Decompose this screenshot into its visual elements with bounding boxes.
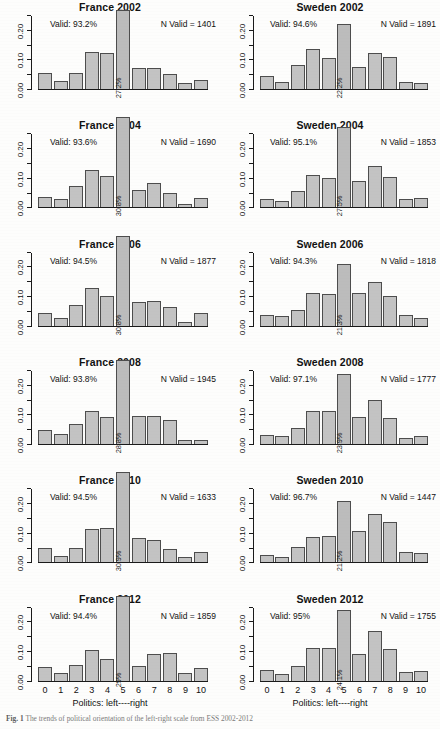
y-axis-minor-tick: [249, 74, 253, 75]
bar-2: [291, 191, 305, 209]
y-axis-minor-tick: [27, 133, 31, 134]
chart-panel-sweden-2012: Sweden 20120.000.100.2024.1%Valid: 95%N …: [220, 592, 440, 710]
y-axis-tick-label: 0.20: [16, 138, 25, 162]
chart-panel-france-2012: France 20120.000.100.2029%Valid: 94.4%N …: [0, 592, 220, 710]
y-axis-line: [31, 253, 32, 327]
bar-3: [85, 288, 99, 326]
chart-panel-sweden-2006: Sweden 20060.000.100.2021.3%Valid: 94.3%…: [220, 237, 440, 355]
bar-6: [132, 190, 146, 208]
y-axis-minor-tick: [27, 429, 31, 430]
y-axis-minor-tick: [27, 45, 31, 46]
y-axis-tick: [27, 385, 31, 386]
bar-5: 30.9%: [116, 472, 130, 563]
x-axis-tick-label: 8: [383, 685, 397, 695]
y-axis-minor-tick: [249, 548, 253, 549]
valid-percent-annotation: Valid: 93.8%: [50, 374, 97, 384]
y-axis-minor-tick: [249, 400, 253, 401]
bar-value-label: 30.8%: [114, 315, 123, 335]
bar-value-label: 27.5%: [335, 196, 344, 216]
bar-3: [306, 293, 320, 326]
y-axis-minor-tick: [249, 636, 253, 637]
y-axis-minor-tick: [27, 311, 31, 312]
x-axis-line: [38, 562, 208, 563]
x-axis-tick-label: 9: [399, 685, 413, 695]
x-axis-line: [260, 444, 428, 445]
bar-value-label: 27.2%: [114, 78, 123, 98]
bar-4: [322, 536, 336, 563]
n-valid-annotation: N Valid = 1891: [381, 19, 436, 29]
y-axis-tick: [27, 148, 31, 149]
bar-5: 28.8%: [116, 360, 130, 445]
x-axis-tick-label: 0: [260, 685, 274, 695]
valid-percent-annotation: Valid: 94.6%: [270, 19, 317, 29]
y-axis-tick: [27, 207, 31, 208]
valid-percent-annotation: Valid: 94.5%: [50, 492, 97, 502]
y-axis-minor-tick: [27, 193, 31, 194]
bar-value-label: 21.2%: [335, 551, 344, 571]
y-axis-line: [31, 608, 32, 682]
bar-3: [306, 411, 320, 445]
bar-5: 24.1%: [337, 610, 351, 681]
y-axis-minor-tick: [249, 607, 253, 608]
y-axis-tick: [249, 266, 253, 267]
x-axis-tick-label: 0: [38, 685, 52, 695]
bar-2: [291, 428, 305, 445]
y-axis-tick-label: 0.10: [16, 404, 25, 428]
x-axis-line: [38, 326, 208, 327]
y-axis-tick-label: 0.20: [238, 19, 247, 43]
bar-6: [352, 654, 366, 682]
x-axis-title: Politics: left----right: [0, 698, 220, 708]
bar-2: [291, 666, 305, 682]
y-axis-tick-label: 0.20: [16, 374, 25, 398]
panel-title: Sweden 2004: [220, 119, 440, 131]
x-axis-line: [38, 681, 208, 682]
x-axis-line: [260, 207, 428, 208]
bar-6: [352, 67, 366, 90]
bar-3: [85, 411, 99, 445]
y-axis-tick: [249, 207, 253, 208]
x-axis-tick-label: 7: [368, 685, 382, 695]
y-axis-minor-tick: [249, 281, 253, 282]
x-axis-line: [260, 562, 428, 563]
valid-percent-annotation: Valid: 95%: [270, 611, 310, 621]
bar-0: [38, 667, 52, 682]
y-axis-line: [253, 16, 254, 90]
y-axis-tick-label: 0.20: [16, 493, 25, 517]
y-axis-tick-label: 0.10: [16, 286, 25, 310]
y-axis-tick-label: 0.00: [238, 670, 247, 694]
chart-panel-sweden-2002: Sweden 20020.000.100.2022.2%Valid: 94.6%…: [220, 0, 440, 118]
valid-percent-annotation: Valid: 93.2%: [50, 19, 97, 29]
panel-grid: France 20020.000.100.2027.2%Valid: 93.2%…: [0, 0, 440, 710]
x-axis-tick-label: 9: [178, 685, 192, 695]
x-axis-tick-label: 2: [291, 685, 305, 695]
bar-4: [100, 53, 114, 90]
y-axis-minor-tick: [249, 666, 253, 667]
y-axis-tick-label: 0.20: [16, 19, 25, 43]
y-axis-minor-tick: [27, 252, 31, 253]
bar-7: [368, 514, 382, 564]
bar-6: [352, 531, 366, 563]
bar-2: [69, 665, 83, 682]
bar-0: [38, 548, 52, 563]
y-axis-line: [253, 253, 254, 327]
y-axis-tick: [27, 30, 31, 31]
y-axis-tick-label: 0.00: [16, 434, 25, 458]
bar-5: 27.2%: [116, 10, 130, 91]
bar-3: [85, 529, 99, 563]
bar-7: [368, 166, 382, 208]
bar-0: [38, 73, 52, 90]
panel-title: France 2012: [0, 593, 220, 605]
y-axis-tick: [27, 681, 31, 682]
n-valid-annotation: N Valid = 1633: [161, 492, 216, 502]
y-axis-tick-label: 0.10: [16, 522, 25, 546]
panel-title: Sweden 2010: [220, 474, 440, 486]
y-axis-tick-label: 0.00: [238, 434, 247, 458]
y-axis-tick: [27, 503, 31, 504]
y-axis-minor-tick: [249, 45, 253, 46]
y-axis-minor-tick: [27, 400, 31, 401]
y-axis-minor-tick: [27, 518, 31, 519]
n-valid-annotation: N Valid = 1853: [381, 137, 436, 147]
y-axis-minor-tick: [27, 548, 31, 549]
panel-title: France 2004: [0, 119, 220, 131]
bar-value-label: 30.9%: [114, 551, 123, 571]
